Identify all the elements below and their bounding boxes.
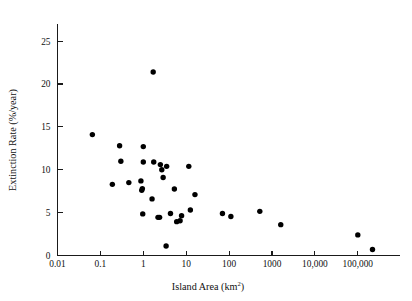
data-point [150, 69, 155, 74]
y-axis-title-text: Extinction Rate (%/year) [7, 89, 19, 191]
y-tick-label: 10 [41, 165, 51, 175]
data-point [220, 211, 225, 216]
data-point [151, 159, 156, 164]
x-tick-label: 1000 [263, 259, 282, 269]
data-point [90, 132, 95, 137]
scatter-plot-figure: 0.010.1110100100010,000100,000 051015202… [0, 0, 412, 301]
x-tick-label: 10 [182, 259, 192, 269]
data-point [149, 196, 154, 201]
data-point [228, 214, 233, 219]
x-tick-label: 100,000 [343, 259, 374, 269]
data-point [118, 158, 123, 163]
y-tick-label: 15 [41, 122, 51, 132]
data-point [141, 159, 146, 164]
data-point [168, 211, 173, 216]
y-tick-label: 20 [41, 79, 51, 89]
x-tick-label: 0.1 [95, 259, 107, 269]
y-axis-ticks [58, 41, 63, 255]
data-point [278, 222, 283, 227]
data-point [126, 180, 131, 185]
data-point [370, 247, 375, 252]
data-point [110, 182, 115, 187]
data-point [158, 162, 163, 167]
x-axis-title: Island Area (km2) [172, 280, 244, 293]
x-axis-title-text: Island Area (km2) [172, 280, 244, 293]
data-point [257, 209, 262, 214]
x-tick-label: 100 [222, 259, 236, 269]
data-point [355, 232, 360, 237]
y-tick-label: 25 [41, 37, 51, 47]
axes-group [58, 24, 401, 256]
data-point [172, 186, 177, 191]
plot-canvas: 0.010.1110100100010,000100,000 051015202… [0, 0, 412, 301]
data-point [140, 211, 145, 216]
y-axis-title: Extinction Rate (%/year) [7, 89, 19, 191]
data-point [179, 213, 184, 218]
data-point [177, 218, 182, 223]
data-point [138, 178, 143, 183]
data-point [117, 143, 122, 148]
data-point [160, 175, 165, 180]
data-point [157, 215, 162, 220]
data-point [141, 144, 146, 149]
data-point [188, 207, 193, 212]
x-axis-tick-labels: 0.010.1110100100010,000100,000 [49, 259, 373, 269]
data-point [163, 243, 168, 248]
y-tick-label: 5 [46, 208, 51, 218]
x-tick-label: 0.01 [49, 259, 66, 269]
data-points-group [90, 69, 376, 252]
x-tick-label: 1 [141, 259, 146, 269]
y-axis-tick-labels: 0510152025 [41, 37, 51, 261]
data-point [159, 167, 164, 172]
y-tick-label: 0 [46, 251, 51, 261]
x-axis-ticks [58, 251, 358, 256]
data-point [140, 186, 145, 191]
data-point [164, 164, 169, 169]
data-point [192, 192, 197, 197]
data-point [186, 164, 191, 169]
x-tick-label: 10,000 [302, 259, 328, 269]
